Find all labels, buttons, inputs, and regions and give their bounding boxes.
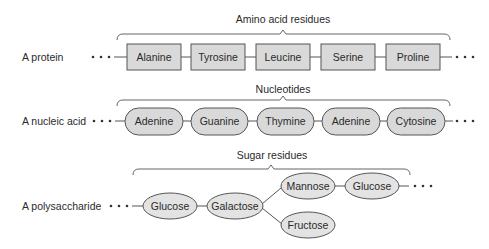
ellipsis-right bbox=[456, 120, 475, 123]
ellipsis-left bbox=[110, 205, 129, 208]
node-label: Glucose bbox=[151, 200, 190, 212]
row-label-protein: A protein bbox=[22, 51, 64, 63]
group-label-amino-acid-residues: Amino acid residues bbox=[236, 13, 331, 25]
node-label: Glucose bbox=[353, 180, 392, 192]
row-label-nucleic-acid: A nucleic acid bbox=[22, 115, 86, 127]
ellipsis-left bbox=[92, 56, 111, 59]
group-label-sugar-residues: Sugar residues bbox=[237, 149, 308, 161]
polysaccharide-row: A polysaccharide Sugar residues Glucose … bbox=[22, 149, 432, 238]
node-label: Thymine bbox=[265, 115, 305, 127]
protein-row: A protein Amino acid residues Alanine Ty… bbox=[22, 13, 474, 70]
ellipsis-right bbox=[414, 185, 433, 188]
brace bbox=[117, 96, 450, 106]
node-label: Leucine bbox=[265, 51, 302, 63]
nucleic-acid-row: A nucleic acid Nucleotides Adenine Guani… bbox=[22, 83, 474, 135]
node-label: Tyrosine bbox=[198, 51, 238, 63]
ellipsis-right bbox=[456, 56, 475, 59]
node-label: Guanine bbox=[200, 115, 240, 127]
node-label: Galactose bbox=[211, 200, 258, 212]
node-label: Fructose bbox=[288, 219, 329, 231]
group-label-nucleotides: Nucleotides bbox=[256, 83, 311, 95]
ellipsis-left bbox=[93, 120, 112, 123]
brace bbox=[117, 30, 450, 40]
node-label: Proline bbox=[397, 51, 430, 63]
node-label: Adenine bbox=[135, 115, 174, 127]
node-label: Alanine bbox=[136, 51, 171, 63]
node-label: Mannose bbox=[286, 180, 329, 192]
node-label: Serine bbox=[333, 51, 364, 63]
node-label: Adenine bbox=[332, 115, 371, 127]
node-label: Cytosine bbox=[396, 115, 437, 127]
row-label-polysaccharide: A polysaccharide bbox=[22, 200, 102, 212]
